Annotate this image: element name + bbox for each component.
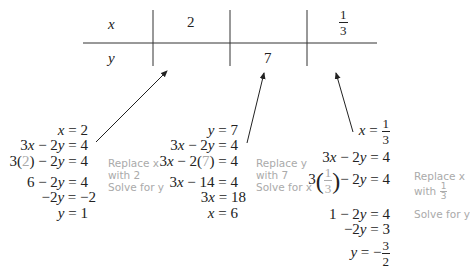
- cell-x-1: 2: [187, 14, 195, 31]
- eq-line: y = −32: [350, 239, 390, 268]
- eq-line: 3x = 18: [201, 189, 246, 205]
- arrow-2: [247, 73, 264, 143]
- note: Replace y with 7 Solve for x: [256, 157, 312, 193]
- eq-line: y = 7: [208, 122, 238, 138]
- eq-line: −2y = −2: [41, 189, 96, 205]
- eq-line: 3(13)− 2y = 4: [308, 166, 390, 195]
- eq-line: x = 6: [208, 205, 238, 221]
- cell-y-2: 7: [264, 50, 272, 67]
- eq-line: 3x − 2(7) = 4: [159, 153, 238, 169]
- eq-line: 3x − 2y = 4: [322, 149, 390, 165]
- eq-line: 3(2) − 2y = 4: [9, 153, 88, 169]
- eq-line: 3x − 14 = 4: [169, 174, 238, 190]
- eq-line: 6 − 2y = 4: [27, 174, 88, 190]
- eq-line: x = 2: [58, 122, 88, 138]
- note: Replace x with 2 Solve for y: [108, 157, 164, 193]
- note: Replace x with 13: [414, 170, 465, 201]
- eq-line: 3x − 2y = 4: [170, 137, 238, 153]
- eq-line: 3x − 2y = 4: [20, 137, 88, 153]
- row-label-y: y: [108, 50, 115, 67]
- eq-line: −2y = 3: [344, 221, 390, 237]
- note: Solve for y: [414, 208, 470, 220]
- eq-line: 1 − 2y = 4: [329, 206, 390, 222]
- row-label-x: x: [108, 16, 115, 33]
- cell-x-3: 13: [339, 8, 348, 37]
- eq-line: y = 1: [58, 205, 88, 221]
- eq-line: x = 13: [359, 117, 390, 146]
- arrow-1: [96, 71, 167, 142]
- arrow-3: [336, 73, 353, 132]
